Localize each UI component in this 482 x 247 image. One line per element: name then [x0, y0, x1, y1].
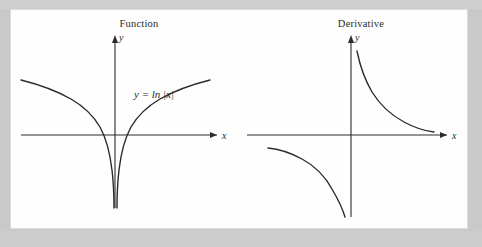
top-margin-strip [0, 0, 482, 9]
curve-reciprocal-upper-right [357, 51, 434, 132]
x-axis-label-derivative: x [451, 130, 457, 141]
equation-function: y = ln |x| [134, 89, 174, 100]
y-axis-derivative [348, 35, 354, 217]
curve-reciprocal-lower-left [268, 148, 345, 217]
bottom-margin-strip [0, 231, 482, 247]
curve-ln-left-branch [21, 80, 114, 208]
x-axis-function [21, 132, 217, 138]
figure-page: Function x y y = ln |x| [0, 0, 482, 247]
plot-function: x y [11, 10, 239, 228]
y-axis-label-derivative: y [354, 32, 360, 43]
panel-function: Function x y y = ln |x| [11, 10, 239, 228]
clipped-caption [190, 0, 300, 7]
panel-derivative: Derivative x y y [239, 10, 467, 228]
y-axis-label-function: y [118, 32, 124, 43]
figure-card: Function x y y = ln |x| [11, 10, 467, 228]
x-axis-label-function: x [221, 130, 227, 141]
plot-derivative: x y [239, 10, 467, 228]
x-axis-derivative [247, 132, 447, 138]
